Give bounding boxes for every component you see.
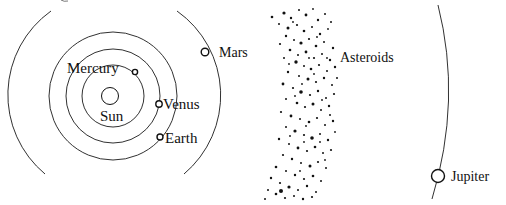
mars-label: Mars xyxy=(219,45,248,60)
asteroid-dot xyxy=(321,53,323,55)
asteroid-dot xyxy=(334,131,336,133)
asteroid-dot xyxy=(304,106,306,108)
asteroid-dot xyxy=(298,9,300,11)
asteroid-dot xyxy=(323,77,325,79)
asteroid-dot xyxy=(285,35,287,37)
asteroid-dot xyxy=(323,41,325,43)
asteroid-dot xyxy=(294,60,297,63)
venus-label: Venus xyxy=(163,96,200,112)
asteroid-dot xyxy=(301,83,303,85)
asteroid-dot xyxy=(312,175,315,178)
asteroid-dot xyxy=(316,117,318,119)
asteroid-dot xyxy=(293,195,295,197)
sun-label: Sun xyxy=(100,108,124,124)
mars-orbit-right-arc xyxy=(177,11,221,174)
asteroid-dot xyxy=(311,196,313,198)
asteroid-dot xyxy=(325,97,327,99)
asteroid-dot xyxy=(299,41,302,44)
asteroid-dot xyxy=(282,154,284,156)
asteroid-dot xyxy=(294,95,296,97)
asteroid-dot xyxy=(264,198,266,200)
jupiter-label: Jupiter xyxy=(451,169,489,184)
asteroid-dot xyxy=(285,170,287,172)
asteroid-dot xyxy=(289,49,292,52)
asteroid-dot xyxy=(293,129,296,132)
asteroid-dot xyxy=(307,78,310,81)
asteroid-dot xyxy=(320,109,322,111)
asteroid-dot xyxy=(287,71,289,73)
asteroid-dot xyxy=(290,115,293,118)
asteroid-dot xyxy=(324,159,326,161)
asteroid-dot xyxy=(320,180,322,182)
asteroid-dot xyxy=(278,138,280,140)
asteroid-dot xyxy=(267,189,269,191)
asteroid-dot xyxy=(332,120,334,122)
asteroid-dot xyxy=(299,118,301,120)
asteroid-dot xyxy=(303,178,305,180)
asteroid-dot xyxy=(324,124,326,126)
asteroid-dot xyxy=(329,114,331,116)
asteroid-dot xyxy=(308,38,310,40)
mars-planet-icon xyxy=(201,48,209,56)
asteroid-dot xyxy=(308,57,310,59)
asteroid-dot xyxy=(334,66,336,68)
asteroid-dot xyxy=(296,102,299,105)
asteroid-dot xyxy=(285,126,287,128)
jupiter-planet-icon xyxy=(432,170,445,183)
asteroid-dot xyxy=(279,182,281,184)
clipped-glyph-fragment xyxy=(61,0,68,1)
asteroid-dot xyxy=(326,57,328,59)
asteroid-dot xyxy=(310,68,313,71)
asteroid-dot xyxy=(329,59,331,61)
asteroid-dot xyxy=(280,111,282,113)
asteroid-dot xyxy=(309,165,312,168)
asteroid-dot xyxy=(278,23,280,25)
asteroid-dot xyxy=(297,189,299,191)
asteroid-dot xyxy=(292,87,294,89)
asteroid-dot xyxy=(312,103,315,106)
asteroid-dot xyxy=(330,21,332,23)
asteroid-dot xyxy=(310,136,314,140)
asteroid-dot xyxy=(315,45,318,48)
asteroid-dot xyxy=(319,33,321,35)
asteroid-dot xyxy=(297,54,299,56)
asteroid-dot xyxy=(302,198,304,200)
asteroid-dot xyxy=(313,73,315,75)
asteroids-label: Asteroids xyxy=(340,50,394,65)
asteroid-dot xyxy=(325,167,327,169)
sun-icon xyxy=(102,88,119,105)
asteroid-dot xyxy=(303,30,306,33)
asteroid-dot xyxy=(313,57,315,59)
asteroid-dot xyxy=(299,90,303,94)
asteroid-dot xyxy=(289,135,291,137)
asteroid-dot xyxy=(275,166,278,169)
asteroid-dot xyxy=(318,64,320,66)
earth-label: Earth xyxy=(165,130,198,146)
asteroid-dot xyxy=(317,90,319,92)
asteroid-dot xyxy=(324,13,326,15)
asteroid-dot xyxy=(319,141,321,143)
venus-planet-icon xyxy=(156,101,162,107)
asteroid-dot xyxy=(319,133,321,135)
asteroid-dot xyxy=(291,158,293,160)
asteroid-dot xyxy=(317,161,319,163)
asteroid-dot xyxy=(326,70,328,72)
asteroid-dot xyxy=(308,121,311,124)
asteroid-dot xyxy=(285,98,287,100)
asteroid-dot xyxy=(327,28,329,30)
asteroid-dot xyxy=(305,14,308,17)
asteroid-dot xyxy=(332,47,334,49)
asteroid-dot xyxy=(321,99,323,101)
asteroid-dot xyxy=(279,189,283,193)
asteroid-dot xyxy=(316,36,318,38)
asteroid-dot xyxy=(303,134,305,136)
asteroid-dot xyxy=(327,139,329,141)
asteroid-dot xyxy=(314,146,317,149)
asteroid-dot xyxy=(283,57,285,59)
asteroid-dot xyxy=(279,43,281,45)
asteroid-dot xyxy=(333,93,335,95)
solar-system-diagram: Sun Mercury Venus Earth Mars Asteroids J… xyxy=(0,0,506,205)
asteroid-dot xyxy=(305,125,307,127)
asteroid-dot xyxy=(299,170,301,172)
mars-orbit-left-arc xyxy=(8,11,51,174)
